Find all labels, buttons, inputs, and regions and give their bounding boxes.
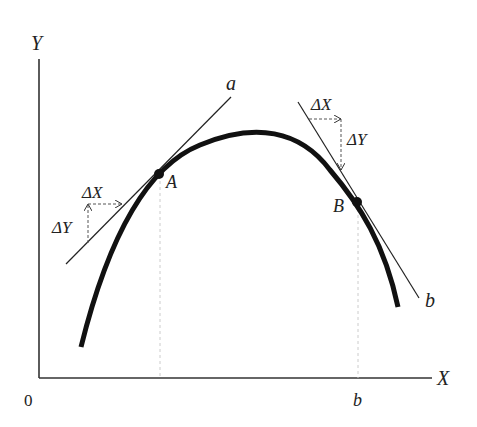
point-a-label: A (165, 172, 178, 192)
point-b-marker (352, 197, 362, 207)
tangent-label-a: a (226, 72, 236, 94)
origin-label: 0 (24, 391, 33, 410)
curve-diagram: Y X 0 b a A ΔX ΔY ΔX ΔY B b (0, 0, 477, 427)
y-axis-label: Y (31, 32, 44, 54)
x-axis-label: X (436, 367, 450, 389)
x-tick-label-b: b (353, 390, 362, 410)
delta-y-label-a: ΔY (51, 218, 73, 237)
tangent-label-b: b (425, 289, 435, 311)
tangent-line-a (66, 97, 231, 264)
delta-y-label-b: ΔY (346, 130, 368, 149)
point-b-label: B (333, 196, 344, 216)
curve (81, 132, 398, 347)
delta-x-label-a: ΔX (81, 183, 103, 202)
delta-x-label-b: ΔX (310, 95, 332, 114)
point-a-marker (154, 169, 164, 179)
axes (39, 59, 432, 378)
